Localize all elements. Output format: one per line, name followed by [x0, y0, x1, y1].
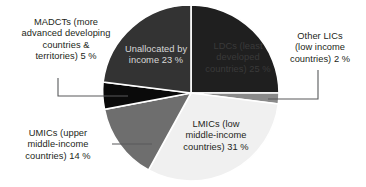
- pie-label-unallocated: Unallocated by income 23 %: [110, 44, 202, 67]
- pie-label-other-lics: Other LICs (low income countries) 2 %: [276, 31, 364, 65]
- pie-label-ldcs: LDCs (least developed countries) 25 %: [192, 41, 284, 75]
- pie-label-umics: UMICs (upper middle-income countries) 14…: [2, 128, 114, 162]
- pie-label-lmics: LMICs (low middle-income countries) 31 %: [166, 119, 266, 153]
- pie-chart-figure: MADCTs (more advanced developing countri…: [0, 0, 366, 187]
